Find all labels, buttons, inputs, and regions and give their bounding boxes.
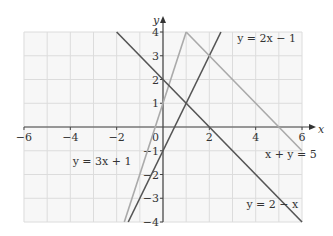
x-tick-label: −6 bbox=[16, 131, 32, 144]
x-tick-label: −2 bbox=[109, 131, 125, 144]
series-annotation: y = 2 − x bbox=[245, 198, 299, 211]
series-annotation: x + y = 5 bbox=[265, 148, 317, 161]
y-tick-label: −4 bbox=[143, 216, 159, 229]
y-tick-label: −3 bbox=[143, 192, 159, 205]
x-tick-label: 6 bbox=[299, 131, 306, 144]
y-tick-label: 3 bbox=[152, 50, 159, 63]
y-tick-label: 1 bbox=[152, 97, 159, 110]
y-tick-label: 4 bbox=[152, 26, 159, 39]
y-axis-arrow-icon bbox=[160, 16, 166, 23]
x-tick-label: −4 bbox=[62, 131, 78, 144]
y-axis-label: y bbox=[152, 14, 160, 27]
series-annotation: y = 3x + 1 bbox=[72, 155, 132, 168]
x-tick-label: 4 bbox=[252, 131, 259, 144]
x-axis-label: x bbox=[318, 123, 325, 136]
x-tick-label: 2 bbox=[206, 131, 213, 144]
series-annotation: y = 2x − 1 bbox=[236, 32, 296, 45]
chart: −6−4−22464321−1−2−3−40xyy = 2x − 1y = 3x… bbox=[0, 0, 333, 236]
x-axis-arrow-icon bbox=[309, 124, 316, 130]
